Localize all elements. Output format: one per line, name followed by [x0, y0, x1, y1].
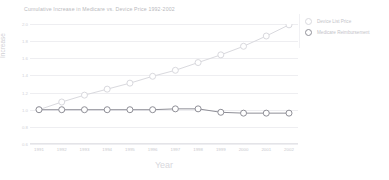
- x-axis-tick-label: 1996: [148, 147, 158, 152]
- x-axis-tick-label: 2002: [284, 147, 294, 152]
- data-point-marker: [150, 73, 156, 79]
- data-point-marker: [263, 110, 269, 116]
- legend-item-label: Medicare Reimbursement: [317, 30, 370, 35]
- data-point-marker: [81, 107, 87, 113]
- data-point-marker: [286, 24, 292, 28]
- series-line: [39, 109, 289, 113]
- data-point-marker: [127, 80, 133, 86]
- data-point-marker: [172, 67, 178, 73]
- x-axis-tick-label: 1995: [125, 147, 135, 152]
- y-axis-tick-label: 1.8: [22, 39, 28, 44]
- x-axis-title: Year: [30, 160, 298, 170]
- x-axis-tick-label: 1998: [193, 147, 203, 152]
- legend-item[interactable]: Medicare Reimbursement: [305, 29, 370, 36]
- data-point-marker: [195, 106, 201, 112]
- chart-canvas: Cumulative Increase in Medicare vs. Devi…: [0, 0, 389, 180]
- data-point-marker: [218, 109, 224, 115]
- y-axis-tick-label: 1.4: [22, 73, 28, 78]
- data-point-marker: [81, 92, 87, 98]
- x-axis-tick-label: 1993: [80, 147, 90, 152]
- data-point-marker: [36, 107, 42, 113]
- y-axis-tick-label: 1.2: [22, 90, 28, 95]
- series-layer: [30, 24, 298, 144]
- legend-item-label: Device List Price: [317, 19, 351, 24]
- x-axis-tick-label: 2000: [239, 147, 249, 152]
- data-point-marker: [127, 107, 133, 113]
- chart-legend: Device List PriceMedicare Reimbursement: [305, 18, 370, 36]
- chart-title: Cumulative Increase in Medicare vs. Devi…: [24, 6, 175, 12]
- data-point-marker: [104, 107, 110, 113]
- y-axis-ticks: 2.01.81.61.41.21.00.80.6: [16, 24, 28, 144]
- x-axis-tick-label: 1992: [57, 147, 67, 152]
- legend-marker-circle-icon: [305, 18, 312, 25]
- data-point-marker: [241, 110, 247, 116]
- y-axis-tick-label: 1.6: [22, 56, 28, 61]
- y-axis-tick-label: 1.0: [22, 107, 28, 112]
- data-point-marker: [263, 33, 269, 39]
- y-axis-title: Increase: [0, 33, 6, 58]
- legend-divider: [299, 14, 300, 48]
- data-point-marker: [59, 99, 65, 105]
- x-axis-tick-label: 1997: [170, 147, 180, 152]
- data-point-marker: [195, 60, 201, 66]
- x-axis-tick-label: 1999: [216, 147, 226, 152]
- x-axis-tick-label: 1994: [102, 147, 112, 152]
- data-point-marker: [241, 43, 247, 49]
- x-axis-tick-label: 2001: [261, 147, 271, 152]
- x-axis-tick-label: 1991: [34, 147, 44, 152]
- data-point-marker: [172, 106, 178, 112]
- y-axis-tick-label: 0.8: [22, 124, 28, 129]
- data-point-marker: [286, 110, 292, 116]
- series-line: [39, 25, 289, 110]
- data-point-marker: [150, 107, 156, 113]
- plot-area: [30, 24, 298, 144]
- y-axis-tick-label: 0.6: [22, 142, 28, 147]
- legend-marker-circle-icon: [305, 29, 312, 36]
- x-axis-ticks: 1991199219931994199519961997199819992000…: [30, 147, 298, 157]
- data-point-marker: [218, 52, 224, 58]
- grid-line: [30, 144, 298, 145]
- legend-item[interactable]: Device List Price: [305, 18, 370, 25]
- y-axis-tick-label: 2.0: [22, 22, 28, 27]
- data-point-marker: [104, 86, 110, 92]
- data-point-marker: [59, 107, 65, 113]
